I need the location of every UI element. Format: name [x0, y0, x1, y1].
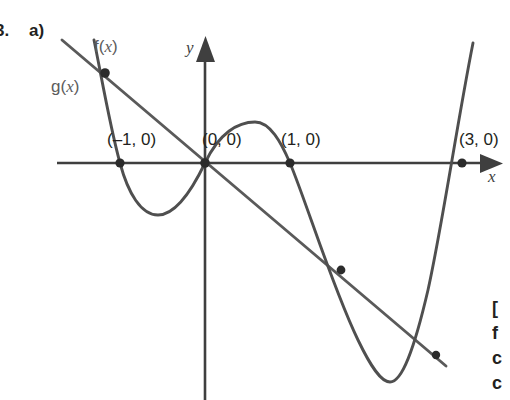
margin-note-line-3: c	[492, 346, 510, 371]
x-axis-label: x	[488, 167, 496, 187]
y-axis-label: y	[186, 38, 194, 58]
point-label-0-0: (0, 0)	[202, 130, 242, 150]
exercise-part: a)	[29, 21, 44, 41]
coordinate-plane-svg	[0, 0, 510, 400]
y-axis-arrowhead	[196, 36, 215, 62]
point-3-0	[457, 158, 466, 167]
point-0-0	[200, 158, 210, 168]
point-intersection-upper-left	[100, 68, 110, 78]
exercise-number: 3.	[0, 21, 9, 41]
graph-figure: 3. a) f(x) g(x) y x (–1, 0) (0, 0) (1, 0…	[0, 0, 510, 400]
curve-label-f: f(x)	[94, 37, 118, 57]
point-1-0	[285, 158, 294, 167]
curve-g	[62, 40, 446, 366]
point-label-neg1-0: (–1, 0)	[107, 130, 156, 150]
margin-note-clipped: [ f c c	[492, 296, 510, 396]
margin-note-line-1: [	[492, 296, 510, 321]
point-label-1-0: (1, 0)	[281, 130, 321, 150]
curve-label-g: g(x)	[51, 77, 79, 97]
margin-note-line-4: c	[492, 371, 510, 396]
y-axis	[196, 36, 215, 400]
margin-note-line-2: f	[492, 321, 510, 346]
point-neg1-0	[115, 158, 124, 167]
point-intersection-middle	[337, 266, 346, 275]
point-intersection-lower	[432, 351, 440, 359]
curve-f	[94, 40, 473, 382]
point-label-3-0: (3, 0)	[459, 130, 499, 150]
